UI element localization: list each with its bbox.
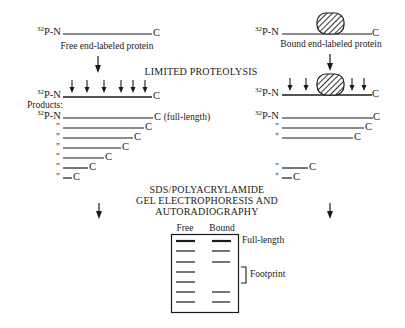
free-products — [63, 118, 153, 178]
free-lane-bands — [176, 241, 195, 302]
step-sds-line2: GEL ELECTROPHORESIS AND — [136, 196, 278, 206]
bound-gel-arrow — [327, 203, 333, 219]
free-cleaved-nterm-label: 32P-N — [37, 90, 61, 101]
bound-cleaved-protein — [282, 74, 372, 95]
bound-product-1-nterm: 32P-N — [255, 111, 279, 122]
bound-caption: Bound end-labeled protein — [280, 40, 381, 50]
gel-box — [172, 235, 239, 313]
gel-full-length-label: Full-length — [242, 236, 284, 246]
free-cleaved-protein — [63, 80, 152, 97]
step-sds-line1: SDS/POLYACRYLAMIDE — [150, 185, 265, 195]
gel-footprint-label: Footprint — [250, 270, 285, 280]
ditto-mark: " — [56, 173, 60, 183]
bound-step-arrow — [327, 54, 333, 71]
free-cterm-label: C — [153, 28, 160, 39]
gel-lane-bound: Bound — [209, 224, 234, 234]
ditto-mark: " — [275, 133, 279, 143]
free-step-arrow — [95, 56, 101, 73]
product-cterm: C — [105, 152, 112, 163]
step-limited-proteolysis: LIMITED PROTEOLYSIS — [144, 67, 257, 77]
bound-ligand-oval — [317, 13, 344, 34]
bound-product-cterm: C — [293, 172, 300, 183]
bound-cleaved-cterm-label: C — [372, 89, 379, 100]
gel — [172, 235, 247, 313]
product-cterm: C — [73, 172, 80, 183]
product-cterm: C — [122, 142, 129, 153]
bound-cleaved-nterm-label: 32P-N — [255, 88, 279, 99]
free-cleaved-cterm-label: C — [153, 91, 160, 102]
ditto-mark: " — [275, 173, 279, 183]
product-cterm: C — [134, 132, 141, 143]
gel-lane-free: Free — [177, 224, 194, 234]
footprint-bracket — [241, 267, 246, 283]
product-1-nterm: 32P-N — [37, 111, 61, 122]
bound-products — [282, 118, 373, 178]
bound-protein — [282, 13, 372, 34]
bound-product-cterm: C — [309, 162, 316, 173]
cut-site-arrows — [70, 80, 148, 93]
bound-cterm-label: C — [372, 28, 379, 39]
bound-ligand-oval-2 — [317, 74, 344, 95]
bound-product-cterm: C — [354, 132, 361, 143]
step-sds-line3: AUTORADIOGRAPHY — [155, 207, 258, 217]
product-cterm: C — [145, 122, 152, 133]
free-nterm-label: 32P-N — [37, 27, 61, 38]
bound-nterm-label: 32P-N — [255, 27, 279, 38]
product-1-cterm: C (full-length) — [154, 112, 210, 123]
bound-product-cterm: C — [365, 122, 372, 133]
free-caption: Free end-labeled protein — [61, 42, 154, 52]
bound-product-cterm: C — [373, 112, 380, 123]
free-gel-arrow — [96, 203, 102, 219]
product-cterm: C — [89, 162, 96, 173]
bound-lane-bands — [212, 241, 231, 302]
